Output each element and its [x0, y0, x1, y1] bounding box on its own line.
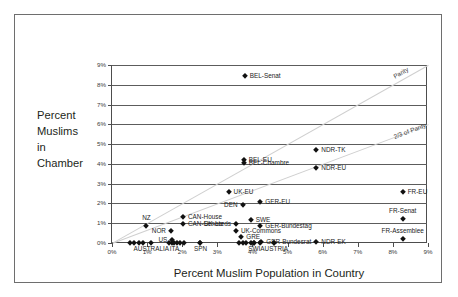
scatter-plot-area: Parity2/3 of Parity 0%1%2%3%4%5%6%7%8%9%… — [111, 65, 427, 243]
data-point — [257, 199, 263, 205]
plot-right-edge — [426, 65, 427, 242]
y-axis-tick-label: 3% — [97, 181, 106, 187]
y-axis-tick-label: 4% — [97, 161, 106, 167]
x-axis-tick — [393, 243, 394, 247]
data-point — [233, 228, 239, 234]
data-point-label: BEL-Senat — [250, 73, 281, 80]
data-point-label: BEL-Chambre — [249, 160, 290, 167]
y-axis-tick-label: 9% — [97, 62, 106, 68]
data-point — [226, 189, 232, 195]
data-point-label: NDR-EU — [321, 165, 346, 172]
data-point — [400, 236, 406, 242]
y-axis-tick-label: 2% — [97, 200, 106, 206]
x-axis-tick — [428, 243, 429, 247]
data-point-label: FR-EU — [408, 189, 428, 196]
gridline — [112, 65, 427, 66]
data-point-label: NDR-EK — [321, 239, 346, 246]
data-point-label: ITA — [170, 246, 179, 253]
y-axis-tick — [108, 164, 112, 165]
data-point-label: AUSTRALIA — [134, 246, 170, 253]
data-point-label: NOR — [152, 228, 166, 235]
data-point — [238, 234, 244, 240]
reference-line-label-parity: Parity — [392, 66, 409, 80]
data-point — [233, 221, 239, 227]
x-axis-tick-label: 0% — [108, 249, 117, 255]
y-axis-tick — [108, 144, 112, 145]
x-axis-tick — [358, 243, 359, 247]
data-point-label: FR-Assemblee — [382, 228, 424, 235]
gridline — [112, 85, 427, 86]
data-point-label: CAN-Senate — [188, 221, 224, 228]
y-axis-tick — [108, 124, 112, 125]
data-point — [241, 160, 247, 166]
gridline — [112, 105, 427, 106]
data-point-label: UK-EU — [234, 189, 254, 196]
data-point-label: DEN — [224, 202, 238, 209]
data-point — [242, 73, 248, 79]
data-point — [313, 147, 319, 153]
data-point — [400, 216, 406, 222]
data-point — [313, 239, 319, 245]
data-point-label: US — [159, 237, 168, 244]
data-point-label: GER-EU — [265, 199, 290, 206]
x-axis-tick-label: 9% — [424, 249, 433, 255]
data-point — [400, 189, 406, 195]
x-axis-tick-label: 7% — [353, 249, 362, 255]
x-axis-tick-label: 3% — [213, 249, 222, 255]
x-axis-tick — [217, 243, 218, 247]
x-axis-tick-label: 8% — [388, 249, 397, 255]
data-point-label: FR-Senat — [389, 207, 416, 214]
y-axis-tick — [108, 223, 112, 224]
y-axis-tick-label: 0% — [97, 240, 106, 246]
y-axis-tick — [108, 203, 112, 204]
x-axis-tick — [112, 243, 113, 247]
data-point-label: AUSTRIA — [260, 246, 288, 253]
data-point — [168, 228, 174, 234]
y-axis-tick — [108, 184, 112, 185]
y-axis-tick-label: 6% — [97, 121, 106, 127]
data-point-label: NDR-TK — [321, 147, 345, 154]
x-axis-title: Percent Muslim Population in Country — [111, 267, 427, 279]
gridline — [112, 124, 427, 125]
y-axis-tick — [108, 85, 112, 86]
y-axis-tick — [108, 105, 112, 106]
y-axis-tick-label: 8% — [97, 82, 106, 88]
y-axis-tick — [108, 65, 112, 66]
data-point — [180, 221, 186, 227]
x-axis-tick-label: 6% — [318, 249, 327, 255]
data-point-label: NZ — [142, 215, 151, 222]
y-axis-tick-label: 1% — [97, 220, 106, 226]
y-axis-tick-label: 7% — [97, 101, 106, 107]
data-point-unlabeled — [181, 240, 187, 246]
data-point-label: SWI — [248, 246, 260, 253]
gridline — [112, 144, 427, 145]
data-point-label: SPN — [194, 246, 207, 253]
data-point — [248, 217, 254, 223]
figure-frame: Percent Muslims in Chamber Percent Musli… — [14, 14, 442, 283]
y-axis-tick-label: 5% — [97, 141, 106, 147]
data-point — [240, 202, 246, 208]
